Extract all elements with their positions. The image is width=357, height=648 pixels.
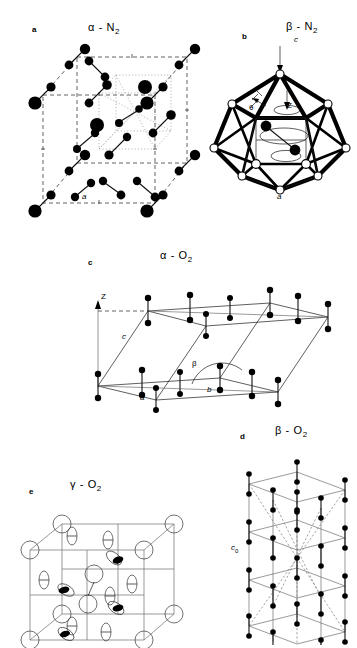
o2-molecule: [294, 555, 300, 581]
panel-title-d-species: O: [294, 424, 303, 436]
gamma-o2-sphere-molecules: [21, 515, 183, 648]
alpha-o2-lattice-c-label: c: [122, 332, 126, 341]
panel-title-c-symbol: α: [160, 249, 167, 261]
alpha-o2-lattice-b-label: b: [207, 385, 211, 394]
alpha-o2-lattice-a-label: a: [140, 393, 144, 402]
o2-molecule: [318, 591, 324, 617]
o2-disc: [101, 623, 111, 641]
o2-molecule: [246, 613, 252, 639]
gamma-o2-cell-edges: [30, 524, 174, 640]
n2-molecule: [104, 133, 131, 160]
panel-title-e-dash: -: [80, 478, 84, 490]
panel-letter-c: c: [88, 258, 93, 267]
gamma-o2-diagram: [2, 508, 212, 648]
o2-disc: [56, 625, 76, 644]
n2-molecule: [85, 57, 110, 82]
n2-molecule: [99, 177, 126, 200]
n2-molecule: [85, 80, 112, 107]
n2-molecule: [28, 190, 55, 217]
o2-molecule: [342, 477, 348, 503]
alpha-o2-cell: [98, 303, 328, 400]
beta-n2-theta-label: θ: [249, 103, 253, 112]
panel-title-c-species: O: [179, 249, 188, 261]
panel-title-e-species: O: [88, 478, 97, 490]
o2-molecule: [270, 535, 276, 561]
o2-molecule: [318, 543, 324, 569]
alpha-n2-cell-edges: [41, 54, 191, 206]
alpha-o2-z-axis: [95, 300, 148, 388]
n2-molecule: [149, 110, 176, 137]
alpha-o2-beta-angle-label: β: [192, 359, 197, 368]
o2-molecule: [270, 583, 276, 609]
o2-disc: [67, 527, 77, 545]
o2-molecule: [246, 471, 252, 497]
o2-disc: [56, 581, 77, 599]
panel-letter-d: d: [240, 432, 245, 441]
panel-title-beta-o2: β - O2: [275, 424, 308, 439]
o2-disc: [39, 571, 49, 589]
panel-title-beta-n2: β - N2: [286, 20, 318, 35]
o2-molecule: [227, 295, 233, 321]
o2-molecule: [318, 637, 324, 645]
o2-disc: [104, 548, 124, 567]
o2-molecule: [246, 519, 252, 545]
icosahedron-vertices: [210, 70, 350, 194]
beta-o2-lattice-c0-label: c0: [231, 543, 238, 554]
alpha-n2-molecules: [28, 44, 200, 218]
alpha-o2-axis-z-label: Z: [101, 292, 106, 301]
beta-n2-icosahedron-diagram: [196, 44, 356, 214]
alpha-n2-diagram: [15, 35, 205, 210]
n2-molecule: [28, 82, 55, 109]
n2-molecule: [90, 118, 104, 132]
n2-molecule: [115, 105, 143, 127]
beta-o2-c0-sub: 0: [235, 548, 238, 554]
o2-molecule: [295, 293, 301, 324]
alpha-n2-lattice-a-label: a: [82, 192, 86, 201]
panel-letter-b: b: [242, 32, 247, 41]
beta-n2-axis-c-label: c: [294, 35, 298, 44]
o2-molecule: [294, 459, 300, 485]
panel-title-d-dash: -: [286, 424, 290, 436]
o2-molecule: [342, 573, 348, 599]
o2-disc: [106, 599, 126, 618]
panel-title-c-sub: 2: [188, 255, 193, 264]
panel-title-a-species: N: [107, 21, 116, 33]
o2-molecule: [294, 601, 300, 627]
o2-molecule: [318, 495, 324, 521]
o2-molecule: [145, 295, 151, 326]
panel-title-a-dash: -: [99, 21, 103, 33]
beta-n2-c-axis-arrow: [277, 46, 283, 73]
o2-molecule: [270, 629, 276, 645]
n2-molecule: [133, 177, 160, 202]
o2-molecule: [342, 619, 348, 645]
panel-title-gamma-o2: γ - O2: [70, 478, 102, 493]
o2-molecule: [249, 369, 255, 399]
panel-title-b-dash: -: [297, 20, 301, 32]
panel-title-e-symbol: γ: [70, 478, 76, 490]
o2-molecule: [246, 567, 252, 593]
o2-disc: [105, 587, 115, 605]
o2-molecule: [187, 292, 193, 323]
o2-disc: [127, 575, 137, 593]
panel-title-a-symbol: α: [88, 21, 95, 33]
n2-molecule: [73, 129, 99, 153]
panel-title-b-species: N: [305, 20, 314, 32]
o2-molecule: [294, 507, 300, 533]
o2-molecule: [153, 385, 159, 413]
o2-molecule: [177, 369, 183, 397]
icosahedron-frame: [214, 74, 346, 190]
panel-letter-e: e: [29, 487, 34, 496]
panel-letter-a: a: [32, 25, 37, 34]
o2-molecule: [203, 311, 209, 339]
panel-title-c-dash: -: [171, 249, 175, 261]
panel-title-e-sub: 2: [97, 484, 102, 493]
panel-title-alpha-o2: α - O2: [160, 249, 193, 264]
gamma-o2-disc-molecules: [39, 527, 137, 643]
alpha-o2-diagram: [60, 288, 350, 408]
beta-n2-lattice-a-label: a: [277, 192, 281, 201]
panel-title-d-sub: 2: [303, 430, 308, 439]
panel-title-alpha-n2: α - N2: [88, 21, 120, 36]
beta-o2-diagram: [235, 450, 357, 645]
o2-molecule: [270, 487, 276, 513]
